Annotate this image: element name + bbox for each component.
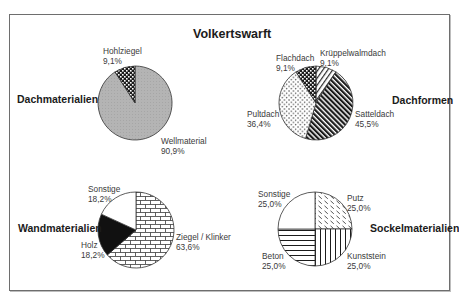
label-kunststein: Kunststein 25,0% bbox=[347, 252, 386, 271]
label-satteldach: Satteldach 45,5% bbox=[355, 110, 394, 129]
chart-title-sockelmaterialien: Sockelmaterialien bbox=[370, 222, 459, 234]
label-holz: Holz 18,2% bbox=[81, 241, 105, 260]
label-hohlziegel: Hohlziegel 9,1% bbox=[103, 47, 142, 66]
pie-dachformen bbox=[279, 66, 353, 140]
pie-dachmaterialien bbox=[98, 66, 172, 140]
label-wellmaterial: Wellmaterial 90,9% bbox=[161, 137, 207, 156]
chart-title-wandmaterialien: Wandmaterialien bbox=[18, 222, 102, 234]
label-putz: Putz 25,0% bbox=[347, 194, 371, 213]
label-pultdach: Pultdach 36,4% bbox=[247, 110, 279, 129]
label-sonstige-wand: Sonstige 18,2% bbox=[88, 185, 120, 204]
chart-title-dachformen: Dachformen bbox=[392, 94, 453, 106]
chart-title-dachmaterialien: Dachmaterialien bbox=[17, 93, 98, 105]
label-flachdach: Flachdach 9,1% bbox=[276, 54, 314, 73]
label-ziegel-klinker: Ziegel / Klinker 63,6% bbox=[176, 233, 231, 252]
label-sonstige-sockel: Sonstige 25,0% bbox=[258, 190, 290, 209]
label-beton: Beton 25,0% bbox=[262, 252, 286, 271]
label-kruppelwalmdach: Krüppelwalmdach 9,1% bbox=[320, 49, 386, 68]
